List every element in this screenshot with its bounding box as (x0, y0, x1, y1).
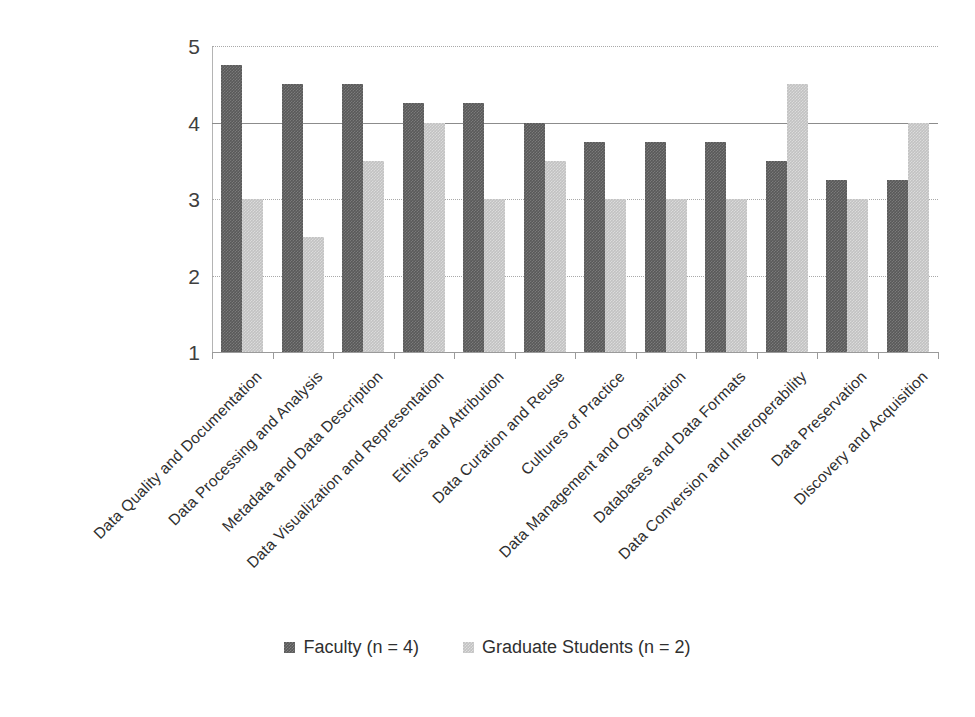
legend-label: Faculty (n = 4) (303, 638, 419, 656)
category-label: Data Preservation (434, 368, 869, 717)
chart-legend: Faculty (n = 4)Graduate Students (n = 2) (0, 638, 975, 656)
legend-label: Graduate Students (n = 2) (482, 638, 691, 656)
legend-item[interactable]: Graduate Students (n = 2) (463, 638, 691, 656)
legend-swatch-icon (284, 642, 295, 653)
x-axis-category-labels: Data Quality and DocumentationData Proce… (0, 0, 975, 717)
legend-swatch-icon (463, 642, 474, 653)
bar-chart: 54321 Data Quality and DocumentationData… (0, 0, 975, 717)
legend-item[interactable]: Faculty (n = 4) (284, 638, 419, 656)
